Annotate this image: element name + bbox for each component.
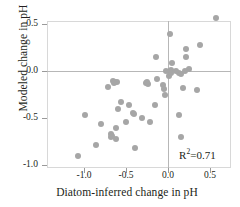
data-point — [178, 134, 184, 140]
zero-reference-line-horizontal — [47, 71, 231, 72]
y-tick-mark — [42, 165, 47, 166]
data-point — [152, 102, 158, 108]
zero-reference-line-vertical — [168, 21, 169, 168]
data-point — [169, 60, 175, 66]
y-tick-mark — [42, 118, 47, 119]
data-point — [82, 112, 88, 118]
data-point — [183, 54, 189, 60]
x-tick-label: 0.5 — [188, 170, 232, 180]
data-point — [98, 121, 104, 127]
r-squared-value: =0.71 — [190, 148, 215, 160]
data-point — [167, 31, 173, 37]
data-point — [197, 42, 203, 48]
x-axis-title: Diatom-inferred change in pH — [22, 186, 232, 198]
data-point — [139, 115, 145, 121]
scatter-plot-figure: 0.50.0-0.5-1.0-1.0-0.50.00.5 Modeled cha… — [0, 0, 240, 207]
r-squared-annotation: R2=0.71 — [179, 147, 216, 161]
data-point — [126, 102, 132, 108]
data-point — [109, 133, 115, 139]
data-point — [154, 76, 160, 82]
x-tick-label: -0.5 — [104, 170, 148, 180]
data-point — [161, 86, 167, 92]
x-tick-label: 0.0 — [146, 170, 190, 180]
y-tick-mark — [42, 71, 47, 72]
x-tick-label: -1.0 — [62, 170, 106, 180]
data-point — [182, 68, 188, 74]
y-axis-title: Modeled change in pH — [17, 0, 29, 133]
data-point — [162, 92, 168, 98]
data-point — [123, 119, 129, 125]
y-tick-label: -1.0 — [0, 159, 38, 169]
data-point — [147, 119, 153, 125]
data-point — [180, 85, 186, 91]
y-tick-mark — [42, 24, 47, 25]
data-point — [93, 142, 99, 148]
data-point — [75, 153, 81, 159]
data-point — [118, 99, 124, 105]
